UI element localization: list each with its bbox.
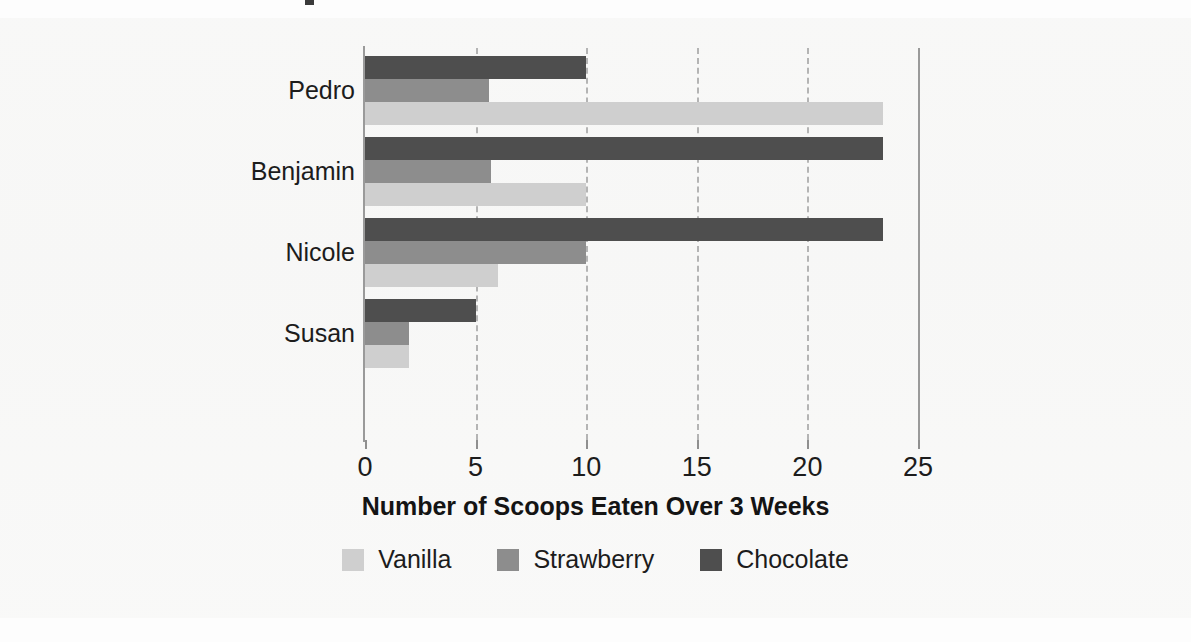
bar-group — [365, 299, 918, 368]
legend-label: Strawberry — [533, 545, 654, 574]
bar-susan-chocolate[interactable] — [365, 299, 476, 322]
bar-benjamin-chocolate[interactable] — [365, 137, 883, 160]
bar-pedro-vanilla[interactable] — [365, 102, 883, 125]
bar-benjamin-vanilla[interactable] — [365, 183, 586, 206]
x-tick-label: 15 — [657, 452, 737, 483]
legend-label: Vanilla — [378, 545, 451, 574]
bar-group — [365, 137, 918, 206]
x-tick-label: 20 — [767, 452, 847, 483]
bar-susan-strawberry[interactable] — [365, 322, 409, 345]
bar-nicole-chocolate[interactable] — [365, 218, 883, 241]
category-label-susan: Susan — [115, 321, 355, 346]
bar-group — [365, 56, 918, 125]
legend-label: Chocolate — [736, 545, 849, 574]
x-tick-label: 10 — [546, 452, 626, 483]
gridline-25 — [918, 48, 920, 440]
tick-mark-5 — [476, 440, 478, 449]
category-label-nicole: Nicole — [115, 240, 355, 265]
bar-susan-vanilla[interactable] — [365, 345, 409, 368]
bar-group — [365, 218, 918, 287]
bar-pedro-chocolate[interactable] — [365, 56, 586, 79]
x-tick-label: 0 — [325, 452, 405, 483]
legend-swatch-chocolate-icon — [700, 549, 722, 571]
tick-mark-10 — [586, 440, 588, 449]
chart-page: PedroBenjaminNicoleSusan 0510152025 Numb… — [0, 0, 1191, 642]
tick-mark-25 — [918, 440, 920, 449]
bar-benjamin-strawberry[interactable] — [365, 160, 491, 183]
x-tick-label: 25 — [878, 452, 958, 483]
category-label-pedro: Pedro — [115, 78, 355, 103]
bar-pedro-strawberry[interactable] — [365, 79, 489, 102]
legend-swatch-strawberry-icon — [497, 549, 519, 571]
bar-nicole-vanilla[interactable] — [365, 264, 498, 287]
x-tick-label: 5 — [436, 452, 516, 483]
legend-item-strawberry[interactable]: Strawberry — [497, 545, 654, 574]
tick-mark-0 — [365, 440, 367, 449]
plot-area — [365, 48, 918, 440]
chart-legend: VanillaStrawberryChocolate — [0, 545, 1191, 574]
legend-item-chocolate[interactable]: Chocolate — [700, 545, 849, 574]
bar-nicole-strawberry[interactable] — [365, 241, 586, 264]
category-label-benjamin: Benjamin — [115, 159, 355, 184]
x-axis-title: Number of Scoops Eaten Over 3 Weeks — [0, 492, 1191, 521]
tick-mark-15 — [697, 440, 699, 449]
tick-mark-20 — [807, 440, 809, 449]
legend-item-vanilla[interactable]: Vanilla — [342, 545, 451, 574]
legend-swatch-vanilla-icon — [342, 549, 364, 571]
